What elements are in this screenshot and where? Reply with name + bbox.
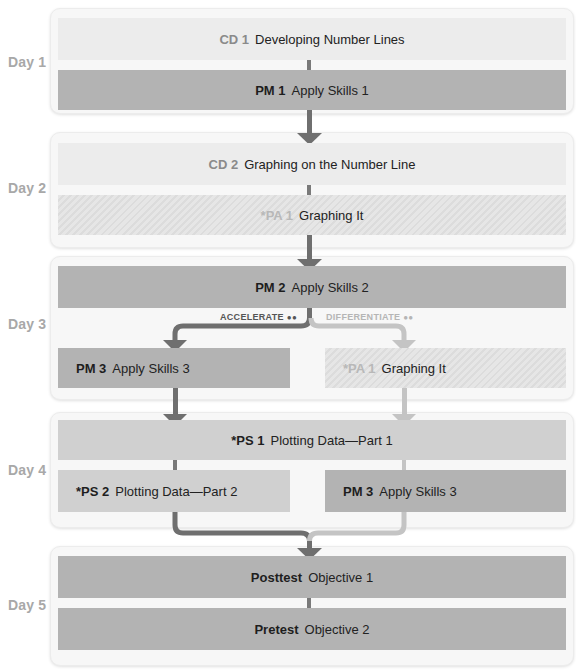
lesson-pm3-accelerate[interactable]: PM 3 Apply Skills 3 bbox=[58, 348, 290, 388]
group-icon: ●● bbox=[403, 313, 413, 322]
lesson-title: Graphing It bbox=[382, 361, 446, 376]
lesson-title: Apply Skills 1 bbox=[292, 83, 369, 98]
lesson-code: CD 1 bbox=[219, 32, 249, 47]
lesson-code: PM 3 bbox=[76, 361, 106, 376]
lesson-code: *PA 1 bbox=[261, 208, 294, 223]
lesson-pa1[interactable]: *PA 1 Graphing It bbox=[58, 195, 566, 235]
lesson-title: Objective 2 bbox=[305, 622, 370, 637]
lesson-pm3-day4[interactable]: PM 3 Apply Skills 3 bbox=[325, 470, 566, 512]
lesson-code: *PA 1 bbox=[343, 361, 376, 376]
lesson-pm2[interactable]: PM 2 Apply Skills 2 bbox=[58, 266, 566, 308]
lesson-code: PM 1 bbox=[255, 83, 285, 98]
lesson-title: Plotting Data—Part 1 bbox=[271, 433, 393, 448]
day-3-label: Day 3 bbox=[8, 316, 46, 332]
day-2-label: Day 2 bbox=[8, 180, 46, 196]
day-1-label: Day 1 bbox=[8, 54, 46, 70]
lesson-title: Plotting Data—Part 2 bbox=[115, 484, 237, 499]
lesson-ps1[interactable]: *PS 1 Plotting Data—Part 1 bbox=[58, 420, 566, 460]
lesson-pretest[interactable]: Pretest Objective 2 bbox=[58, 608, 566, 650]
lesson-title: Developing Number Lines bbox=[255, 32, 405, 47]
group-icon: ●● bbox=[287, 313, 297, 322]
lesson-ps2[interactable]: *PS 2 Plotting Data—Part 2 bbox=[58, 470, 290, 512]
lesson-title: Graphing It bbox=[299, 208, 363, 223]
differentiate-label: DIFFERENTIATE●● bbox=[326, 312, 414, 322]
accelerate-text: ACCELERATE bbox=[220, 312, 284, 322]
accelerate-label: ACCELERATE●● bbox=[220, 312, 297, 322]
lesson-posttest[interactable]: Posttest Objective 1 bbox=[58, 556, 566, 598]
lesson-title: Apply Skills 2 bbox=[292, 280, 369, 295]
lesson-code: PM 3 bbox=[343, 484, 373, 499]
lesson-cd2[interactable]: CD 2 Graphing on the Number Line bbox=[58, 143, 566, 185]
lesson-cd1[interactable]: CD 1 Developing Number Lines bbox=[58, 18, 566, 60]
lesson-code: CD 2 bbox=[209, 157, 239, 172]
lesson-title: Apply Skills 3 bbox=[379, 484, 456, 499]
day-5-label: Day 5 bbox=[8, 597, 46, 613]
differentiate-text: DIFFERENTIATE bbox=[326, 312, 400, 322]
lesson-code: *PS 1 bbox=[231, 433, 264, 448]
lesson-title: Graphing on the Number Line bbox=[244, 157, 415, 172]
lesson-code: Posttest bbox=[251, 570, 302, 585]
lesson-code: *PS 2 bbox=[76, 484, 109, 499]
lesson-title: Objective 1 bbox=[308, 570, 373, 585]
lesson-code: PM 2 bbox=[255, 280, 285, 295]
lesson-pm1[interactable]: PM 1 Apply Skills 1 bbox=[58, 70, 566, 110]
lesson-code: Pretest bbox=[254, 622, 298, 637]
day-4-label: Day 4 bbox=[8, 462, 46, 478]
lesson-title: Apply Skills 3 bbox=[112, 361, 189, 376]
lesson-pa1-differentiate[interactable]: *PA 1 Graphing It bbox=[325, 348, 566, 388]
